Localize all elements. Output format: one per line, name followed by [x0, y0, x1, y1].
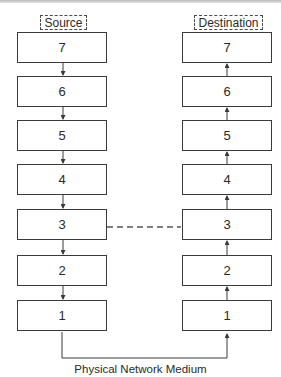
physical-medium-label: Physical Network Medium [0, 362, 281, 376]
connections [0, 0, 281, 377]
physical-medium-line [62, 332, 227, 358]
